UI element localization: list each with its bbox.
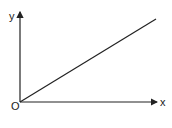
x-axis-label: x <box>160 96 166 108</box>
origin-label: O <box>11 100 20 112</box>
y-axis-label: y <box>9 10 15 22</box>
linear-line <box>20 19 156 102</box>
axes-diagram: y x O <box>0 0 172 128</box>
